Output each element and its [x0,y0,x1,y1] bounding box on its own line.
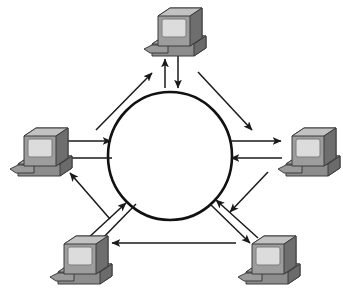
node-left-computer[interactable] [10,128,72,176]
network-topology-diagram: Ring network topology diagram [0,0,343,298]
node-top-computer[interactable] [144,8,206,56]
connection-upper-right-return [230,172,268,212]
connection-upper-left-return [70,173,110,219]
central-ring [108,92,232,220]
node-right-computer[interactable] [278,128,340,176]
connection-upper-right-diagonal [198,72,252,130]
node-bottom-right-computer[interactable] [238,236,300,284]
node-bottom-left-computer[interactable] [50,236,112,284]
connection-ring-to-bottom-right-node [210,204,250,243]
connection-upper-left-diagonal [96,73,152,130]
diagram-canvas [0,0,343,298]
